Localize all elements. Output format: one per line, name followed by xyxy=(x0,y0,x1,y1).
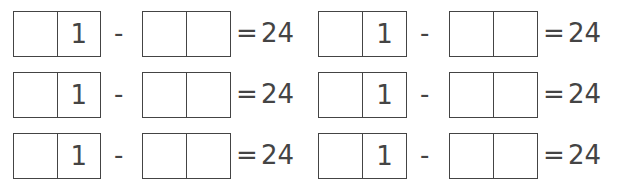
ones-digit-input[interactable] xyxy=(493,73,537,117)
tens-digit-input[interactable] xyxy=(450,134,493,178)
ones-digit: 1 xyxy=(362,73,406,117)
ones-digit: 1 xyxy=(57,134,101,178)
tens-digit-input[interactable] xyxy=(450,12,493,56)
result: 24 xyxy=(261,137,294,173)
tens-digit-input[interactable] xyxy=(143,73,186,117)
tens-digit-input[interactable] xyxy=(14,12,57,56)
equals-sign: = xyxy=(543,15,565,51)
result: 24 xyxy=(568,137,601,173)
tens-digit-input[interactable] xyxy=(14,73,57,117)
minuend-box: 1 xyxy=(13,11,101,57)
ones-digit-input[interactable] xyxy=(493,12,537,56)
ones-digit: 1 xyxy=(362,134,406,178)
subtrahend-box xyxy=(142,133,231,179)
equals-sign: = xyxy=(543,137,565,173)
minus-sign: - xyxy=(420,76,429,112)
ones-digit: 1 xyxy=(57,73,101,117)
tens-digit-input[interactable] xyxy=(319,12,362,56)
ones-digit-input[interactable] xyxy=(186,12,230,56)
tens-digit-input[interactable] xyxy=(14,134,57,178)
minus-sign: - xyxy=(114,137,123,173)
equals-sign: = xyxy=(236,137,258,173)
result: 24 xyxy=(568,15,601,51)
result: 24 xyxy=(261,15,294,51)
tens-digit-input[interactable] xyxy=(319,73,362,117)
minus-sign: - xyxy=(114,15,123,51)
minuend-box: 1 xyxy=(13,133,101,179)
result: 24 xyxy=(568,76,601,112)
minus-sign: - xyxy=(420,137,429,173)
equals-sign: = xyxy=(236,15,258,51)
minuend-box: 1 xyxy=(13,72,101,118)
result: 24 xyxy=(261,76,294,112)
subtrahend-box xyxy=(142,72,231,118)
tens-digit-input[interactable] xyxy=(143,12,186,56)
ones-digit: 1 xyxy=(57,12,101,56)
ones-digit-input[interactable] xyxy=(186,134,230,178)
equals-sign: = xyxy=(236,76,258,112)
ones-digit-input[interactable] xyxy=(186,73,230,117)
tens-digit-input[interactable] xyxy=(143,134,186,178)
minuend-box: 1 xyxy=(318,11,407,57)
tens-digit-input[interactable] xyxy=(319,134,362,178)
minus-sign: - xyxy=(114,76,123,112)
ones-digit-input[interactable] xyxy=(493,134,537,178)
tens-digit-input[interactable] xyxy=(450,73,493,117)
minus-sign: - xyxy=(420,15,429,51)
subtrahend-box xyxy=(449,72,538,118)
minuend-box: 1 xyxy=(318,72,407,118)
minuend-box: 1 xyxy=(318,133,407,179)
subtrahend-box xyxy=(449,11,538,57)
ones-digit: 1 xyxy=(362,12,406,56)
subtrahend-box xyxy=(449,133,538,179)
equals-sign: = xyxy=(543,76,565,112)
subtrahend-box xyxy=(142,11,231,57)
